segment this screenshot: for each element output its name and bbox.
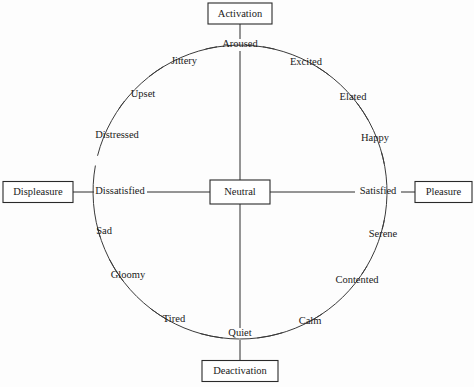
circle-label-happy[interactable]: Happy [361,132,390,143]
circle-label-aroused[interactable]: Aroused [222,38,258,49]
anchor-box-deactivation[interactable]: Deactivation [202,361,278,382]
circle-label-dissatisfied[interactable]: Dissatisfied [95,185,145,196]
anchor-box-pleasure-label: Pleasure [426,186,462,197]
circle-label-distressed[interactable]: Distressed [95,129,139,140]
circle-label-excited[interactable]: Excited [290,56,323,67]
arc-segment-jittery-to-aroused [206,47,217,49]
circle-label-jittery[interactable]: Jittery [171,55,198,66]
anchor-box-activation-label: Activation [218,8,263,19]
anchor-box-displeasure[interactable]: Displeasure [3,182,73,203]
circle-label-elated[interactable]: Elated [340,91,368,102]
circle-label-serene[interactable]: Serene [369,228,398,239]
circumplex-affect-diagram: Activation Deactivation Displeasure Plea… [0,0,474,387]
anchor-box-pleasure[interactable]: Pleasure [415,182,472,203]
arc-segment-upset-to-jittery [149,67,163,77]
affect-diagram-canvas: Activation Deactivation Displeasure Plea… [0,0,474,387]
anchor-box-activation[interactable]: Activation [208,3,272,24]
center-node-neutral-label: Neutral [224,186,256,197]
circle-label-contented[interactable]: Contented [335,274,379,285]
center-node-neutral[interactable]: Neutral [210,180,270,204]
circle-label-calm[interactable]: Calm [299,315,322,326]
circle-label-satisfied[interactable]: Satisfied [360,185,397,196]
circle-label-upset[interactable]: Upset [131,88,156,99]
anchor-box-deactivation-label: Deactivation [213,365,267,376]
circle-label-sad[interactable]: Sad [96,225,113,236]
arc-segment-distressed-to-upset [119,101,124,108]
circle-label-quiet[interactable]: Quiet [228,327,251,338]
anchor-box-displeasure-label: Displeasure [13,186,63,197]
circle-label-tired[interactable]: Tired [163,313,186,324]
circle-label-gloomy[interactable]: Gloomy [111,269,146,280]
